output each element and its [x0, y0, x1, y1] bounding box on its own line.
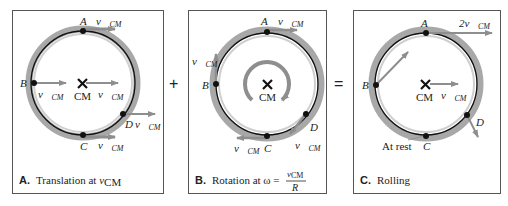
- label-a: A: [260, 15, 268, 27]
- label-vb: v⃗CM: [38, 88, 65, 102]
- label-cm: CM: [259, 91, 276, 103]
- point-d: [303, 111, 309, 117]
- panel-rolling: A 2v⃗CM B CM v⃗CM D At rest C C. Rolling: [354, 11, 501, 194]
- label-cm: CM: [74, 90, 91, 102]
- label-c: C: [264, 142, 272, 154]
- point-b: [31, 80, 37, 86]
- label-vcm: v⃗CM: [441, 89, 468, 103]
- rolling-motion-diagram: A v⃗CM B v⃗CM CM v⃗CM D v⃗CM C v⃗CM A. T…: [0, 0, 508, 206]
- label-b: B: [202, 79, 209, 91]
- panel-translation: A v⃗CM B v⃗CM CM v⃗CM D v⃗CM C v⃗CM A. T…: [13, 11, 164, 194]
- cm-marker-icon: [78, 79, 87, 88]
- point-c: [264, 133, 270, 139]
- point-d: [120, 111, 126, 117]
- label-a: A: [79, 15, 87, 27]
- label-2va: 2v⃗CM: [459, 17, 491, 31]
- cm-marker-icon: [421, 80, 430, 89]
- point-d: [464, 112, 470, 118]
- equals-operator: =: [334, 75, 343, 92]
- label-cm: CM: [416, 91, 433, 103]
- point-b: [213, 81, 219, 87]
- plus-operator: +: [169, 75, 178, 92]
- point-b: [373, 82, 379, 88]
- label-vd: v⃗CM: [295, 139, 322, 153]
- point-a: [80, 28, 86, 34]
- label-c: C: [80, 140, 88, 152]
- label-vc: v⃗CM: [234, 142, 261, 156]
- point-a: [264, 29, 270, 35]
- fraction-numerator: vCM: [287, 169, 303, 180]
- panel-rotation: A v⃗CM v⃗CM B CM D v⃗CM C v⃗CM B. Rotati…: [189, 11, 327, 194]
- caption-rotation: B. Rotation at ω =: [195, 170, 280, 187]
- label-b: B: [362, 79, 369, 91]
- point-c: [80, 132, 86, 138]
- label-vcm: v⃗CM: [98, 88, 125, 102]
- label-c: C: [423, 140, 431, 152]
- label-va: v⃗CM: [278, 15, 305, 29]
- label-at-rest: At rest: [382, 140, 412, 152]
- label-b: B: [20, 77, 27, 89]
- cm-marker-icon: [263, 80, 272, 89]
- point-c: [423, 133, 429, 139]
- label-a: A: [420, 17, 428, 29]
- label-d: D: [309, 121, 318, 133]
- label-d: D: [124, 118, 133, 130]
- fraction-denominator: R: [291, 182, 298, 193]
- label-vc: v⃗CM: [98, 139, 125, 153]
- label-d: D: [475, 116, 484, 128]
- caption-translation: A. Translation at vCM: [19, 170, 121, 188]
- caption-rolling: C. Rolling: [360, 170, 411, 187]
- label-va: v⃗CM: [96, 15, 123, 29]
- point-a: [423, 30, 429, 36]
- label-vd: v⃗CM: [135, 118, 162, 132]
